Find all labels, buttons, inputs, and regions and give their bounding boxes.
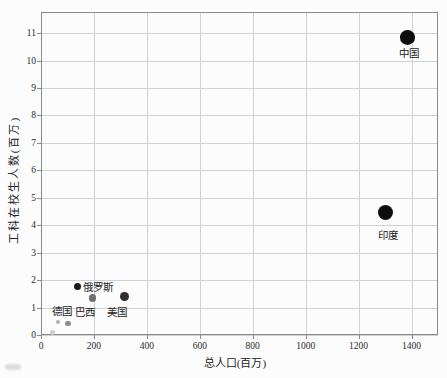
y-tick-label-5: 5 bbox=[31, 193, 36, 203]
x-tick-0 bbox=[41, 335, 42, 339]
data-point-中国 bbox=[400, 30, 415, 45]
data-point-label-美国: 美国 bbox=[107, 303, 127, 318]
x-tick-label-600: 600 bbox=[193, 341, 207, 351]
data-point-unlabeled-6 bbox=[56, 320, 61, 325]
x-tick-200 bbox=[94, 335, 95, 339]
x-tick-label-1000: 1000 bbox=[296, 341, 315, 351]
x-tick-label-400: 400 bbox=[140, 341, 154, 351]
y-tick-1 bbox=[37, 308, 41, 309]
y-tick-label-10: 10 bbox=[27, 56, 37, 66]
data-point-印度 bbox=[378, 205, 393, 220]
x-tick-label-200: 200 bbox=[87, 341, 101, 351]
gridline-y-0 bbox=[41, 335, 438, 336]
y-tick-label-6: 6 bbox=[31, 165, 36, 175]
y-tick-3 bbox=[37, 253, 41, 254]
x-tick-label-0: 0 bbox=[39, 341, 44, 351]
y-tick-label-8: 8 bbox=[31, 110, 36, 120]
y-tick-label-9: 9 bbox=[31, 83, 36, 93]
y-tick-7 bbox=[37, 143, 41, 144]
data-point-俄罗斯 bbox=[74, 283, 81, 290]
gridline-y-8 bbox=[41, 115, 438, 116]
x-tick-1400 bbox=[412, 335, 413, 339]
y-tick-label-2: 2 bbox=[31, 275, 36, 285]
data-point-美国 bbox=[120, 292, 129, 301]
gridline-y-3 bbox=[41, 253, 438, 254]
gridline-y-10 bbox=[41, 61, 438, 62]
x-tick-600 bbox=[200, 335, 201, 339]
gridline-y-9 bbox=[41, 88, 438, 89]
y-tick-label-7: 7 bbox=[31, 138, 36, 148]
y-tick-11 bbox=[37, 33, 41, 34]
data-point-德国 bbox=[65, 321, 71, 327]
x-tick-1000 bbox=[306, 335, 307, 339]
scatter-chart-figure: 工科在校生人数(百万) 总人口(百万) 02004006008001000120… bbox=[0, 0, 447, 378]
gridline-y-6 bbox=[41, 170, 438, 171]
y-tick-8 bbox=[37, 115, 41, 116]
x-tick-800 bbox=[253, 335, 254, 339]
x-tick-label-800: 800 bbox=[246, 341, 260, 351]
data-point-label-巴西: 巴西 bbox=[75, 303, 95, 318]
data-point-巴西 bbox=[89, 294, 96, 301]
gridline-y-1 bbox=[41, 308, 438, 309]
data-point-label-中国: 中国 bbox=[399, 45, 419, 60]
x-tick-400 bbox=[147, 335, 148, 339]
y-tick-label-4: 4 bbox=[31, 220, 36, 230]
data-point-label-印度: 印度 bbox=[378, 226, 398, 241]
y-tick-10 bbox=[37, 61, 41, 62]
gridline-y-7 bbox=[41, 143, 438, 144]
gridline-y-5 bbox=[41, 198, 438, 199]
scan-artifact bbox=[5, 364, 21, 370]
y-tick-4 bbox=[37, 225, 41, 226]
gridline-y-11 bbox=[41, 33, 438, 34]
y-tick-9 bbox=[37, 88, 41, 89]
y-tick-0 bbox=[37, 335, 41, 336]
x-axis-label: 总人口(百万) bbox=[204, 354, 266, 370]
y-tick-5 bbox=[37, 198, 41, 199]
y-tick-label-3: 3 bbox=[31, 248, 36, 258]
y-tick-label-1: 1 bbox=[31, 303, 36, 313]
y-axis-label: 工科在校生人数(百万) bbox=[5, 116, 21, 244]
y-tick-6 bbox=[37, 170, 41, 171]
y-tick-2 bbox=[37, 280, 41, 281]
x-tick-label-1400: 1400 bbox=[402, 341, 421, 351]
data-point-label-俄罗斯: 俄罗斯 bbox=[83, 278, 113, 293]
y-tick-label-0: 0 bbox=[31, 330, 36, 340]
data-point-unlabeled-7 bbox=[50, 330, 55, 335]
data-point-label-德国: 德国 bbox=[52, 303, 72, 318]
y-tick-label-11: 11 bbox=[27, 28, 36, 38]
x-tick-1200 bbox=[359, 335, 360, 339]
x-tick-label-1200: 1200 bbox=[349, 341, 368, 351]
